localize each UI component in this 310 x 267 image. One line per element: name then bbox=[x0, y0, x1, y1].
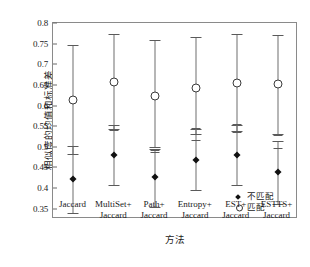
data-point-match bbox=[273, 80, 282, 89]
data-point-mismatch bbox=[192, 156, 199, 163]
y-tick-mark bbox=[53, 188, 57, 189]
error-bar-inner-tick bbox=[191, 128, 200, 129]
error-bar-inner-tick bbox=[191, 140, 200, 141]
y-tick-mark bbox=[53, 23, 57, 24]
x-tick-label: Path+Jaccard bbox=[141, 199, 168, 220]
error-bar-cap bbox=[272, 141, 283, 142]
error-bar-cap bbox=[190, 190, 201, 191]
x-tick-label: MultiSet+Jaccard bbox=[95, 199, 132, 220]
y-tick-label: 0.4 bbox=[37, 184, 53, 193]
y-tick-label: 0.7 bbox=[37, 60, 53, 69]
data-point-mismatch bbox=[70, 176, 77, 183]
y-tick-label: 0.8 bbox=[37, 19, 53, 28]
y-tick-mark bbox=[53, 126, 57, 127]
error-bar-inner-tick bbox=[151, 150, 160, 151]
data-point-mismatch bbox=[233, 151, 240, 158]
x-tick-label: EST+Jaccard bbox=[222, 199, 249, 220]
data-point-match bbox=[232, 78, 241, 87]
error-bar-inner-tick bbox=[273, 148, 282, 149]
error-bar-cap bbox=[272, 35, 283, 36]
error-bar-cap bbox=[231, 185, 242, 186]
data-point-mismatch bbox=[274, 169, 281, 176]
error-bar-cap bbox=[190, 134, 201, 135]
error-bar-cap bbox=[68, 154, 79, 155]
error-bar-cap bbox=[109, 185, 120, 186]
data-point-match bbox=[110, 77, 119, 86]
x-tick-label: Jaccard bbox=[59, 199, 86, 210]
y-tick-label: 0.35 bbox=[33, 204, 53, 213]
y-tick-mark bbox=[53, 84, 57, 85]
error-bar-cap bbox=[190, 37, 201, 38]
y-tick-label: 0.5 bbox=[37, 142, 53, 151]
x-axis-label: 方法 bbox=[165, 232, 185, 246]
data-point-mismatch bbox=[111, 151, 118, 158]
y-tick-label: 0.55 bbox=[33, 122, 53, 131]
chart-figure: 相似度的均值和标准差 0.350.40.450.50.550.60.650.70… bbox=[0, 0, 310, 267]
y-tick-mark bbox=[53, 208, 57, 209]
error-bar-inner-tick bbox=[110, 130, 119, 131]
error-bar-cap bbox=[150, 40, 161, 41]
y-tick-mark bbox=[53, 105, 57, 106]
error-bar-cap bbox=[231, 131, 242, 132]
error-bar-cap bbox=[109, 34, 120, 35]
data-point-mismatch bbox=[152, 173, 159, 180]
plot-area: 0.350.40.450.50.550.60.650.70.750.8 不匹配匹… bbox=[52, 22, 297, 218]
x-tick-label: ESTTS+Jaccard bbox=[261, 199, 293, 220]
error-bar-cap bbox=[109, 129, 120, 130]
y-tick-label: 0.6 bbox=[37, 101, 53, 110]
y-tick-mark bbox=[53, 43, 57, 44]
error-bar-cap bbox=[68, 45, 79, 46]
y-tick-mark bbox=[53, 146, 57, 147]
y-tick-label: 0.45 bbox=[33, 163, 53, 172]
y-tick-mark bbox=[53, 167, 57, 168]
error-bar-inner-tick bbox=[69, 146, 78, 147]
error-bar-cap bbox=[150, 147, 161, 148]
error-bar-cap bbox=[68, 213, 79, 214]
error-bar-inner-tick bbox=[273, 135, 282, 136]
y-tick-label: 0.75 bbox=[33, 39, 53, 48]
data-point-match bbox=[69, 95, 78, 104]
y-tick-mark bbox=[53, 64, 57, 65]
x-tick-label: Entropy+Jaccard bbox=[178, 199, 212, 220]
data-point-match bbox=[151, 92, 160, 101]
y-tick-label: 0.65 bbox=[33, 80, 53, 89]
error-bar-inner-tick bbox=[151, 152, 160, 153]
y-axis-label-wrap: 相似度的均值和标准差 bbox=[0, 22, 18, 218]
error-bar-inner-tick bbox=[232, 124, 241, 125]
error-bar-cap bbox=[231, 34, 242, 35]
data-point-match bbox=[191, 83, 200, 92]
error-bar-inner-tick bbox=[110, 125, 119, 126]
error-bar-inner-tick bbox=[232, 132, 241, 133]
